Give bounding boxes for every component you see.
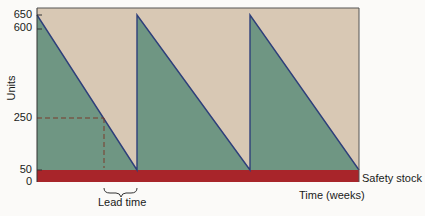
tick-50: 50 [2, 163, 32, 175]
lead-time-label: Lead time [98, 196, 146, 208]
tick-650: 650 [2, 8, 32, 20]
safety-stock-band [37, 170, 359, 182]
safety-stock-label: Safety stock [362, 172, 422, 184]
tick-0: 0 [2, 175, 32, 187]
tick-600: 600 [2, 21, 32, 33]
x-axis-label: Time (weeks) [299, 189, 365, 201]
tick-250: 250 [2, 111, 32, 123]
y-axis-label: Units [5, 75, 17, 100]
